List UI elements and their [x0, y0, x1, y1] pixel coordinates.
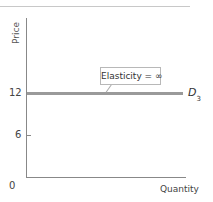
demand-curve-d3 — [27, 92, 183, 95]
curve-label-d3: D3 — [188, 86, 201, 101]
top-rule — [0, 6, 190, 7]
origin-label: 0 — [9, 180, 15, 191]
y-tick-6 — [26, 135, 31, 136]
x-axis-label: Quantity — [160, 184, 199, 194]
y-axis — [26, 18, 27, 178]
elasticity-callout: Elasticity = ∞ — [100, 67, 161, 85]
y-axis-label-wrap: Price — [10, 18, 22, 44]
curve-label-sub: 3 — [196, 95, 200, 103]
y-tick-label-6: 6 — [15, 129, 21, 140]
y-axis-label: Price — [11, 22, 21, 44]
y-tick-label-12: 12 — [9, 87, 22, 98]
x-axis — [26, 177, 186, 178]
